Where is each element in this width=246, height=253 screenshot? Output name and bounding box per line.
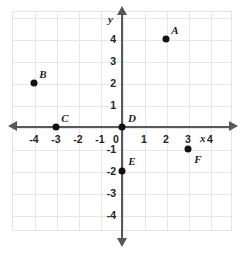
data-point-e [119,168,126,175]
x-tick-label: 3 [185,134,191,145]
data-point-label-e: E [128,156,135,167]
gridline-vertical [35,12,36,230]
gridline-vertical [123,12,124,230]
data-point-b [31,80,38,87]
x-tick-label: -3 [51,134,60,145]
x-tick-label: -2 [73,134,82,145]
coordinate-plane-graph: x y -4-3-2-1012344321-1-2-3-4 ABCDEF [0,0,246,253]
x-tick-label: -1 [95,134,104,145]
y-tick-label: 4 [110,34,116,45]
gridline-vertical [57,12,58,230]
data-point-label-d: D [128,113,136,124]
y-axis-down-arrow-icon [117,238,127,247]
gridline-vertical [189,12,190,230]
gridline-vertical [101,12,102,230]
data-point-d [119,124,126,131]
gridline-vertical [211,12,212,230]
x-axis-left-arrow-icon [8,121,17,131]
data-point-c [53,124,60,131]
x-tick-label: 4 [207,134,213,145]
data-point-label-a: A [171,25,178,36]
data-point-label-c: C [61,113,68,124]
y-tick-label: 1 [110,100,116,111]
data-point-a [163,36,170,43]
y-tick-label: 3 [110,56,116,67]
y-tick-label: -4 [107,210,116,221]
y-tick-label: 2 [110,78,116,89]
x-tick-label: -4 [29,134,38,145]
y-axis-up-arrow-icon [117,6,127,15]
gridline-vertical [167,12,168,230]
x-axis-right-arrow-icon [229,121,238,131]
x-axis-label: x [200,133,206,144]
y-tick-label: -2 [107,166,116,177]
data-point-f [185,146,192,153]
data-point-label-f: F [194,154,201,165]
data-point-label-b: B [39,69,46,80]
x-tick-label: 1 [141,134,147,145]
y-tick-label: -1 [107,144,116,155]
gridline-vertical [79,12,80,230]
gridline-vertical [145,12,146,230]
y-tick-label: -3 [107,188,116,199]
x-tick-label: 2 [163,134,169,145]
y-axis-label: y [108,14,113,25]
